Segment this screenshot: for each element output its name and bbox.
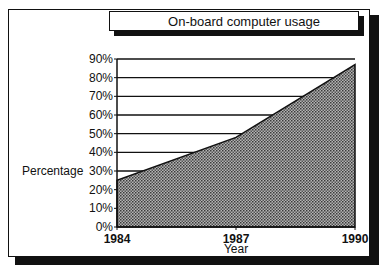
area-series bbox=[117, 65, 355, 227]
y-tick-label: 50% bbox=[89, 127, 113, 141]
area-chart: 0%10%20%30%40%50%60%70%80%90% 1984198719… bbox=[0, 0, 384, 278]
y-tick-label: 30% bbox=[89, 164, 113, 178]
y-tick-labels: 0%10%20%30%40%50%60%70%80%90% bbox=[89, 52, 113, 234]
y-tick-label: 80% bbox=[89, 71, 113, 85]
y-axis-title: Percentage bbox=[22, 164, 84, 178]
y-tick-label: 40% bbox=[89, 145, 113, 159]
x-tick-label: 1990 bbox=[342, 232, 369, 246]
y-tick-label: 10% bbox=[89, 201, 113, 215]
x-tick-label: 1984 bbox=[104, 232, 131, 246]
x-axis-title: Year bbox=[224, 242, 248, 256]
y-tick-label: 20% bbox=[89, 183, 113, 197]
y-tick-label: 60% bbox=[89, 108, 113, 122]
y-tick-label: 70% bbox=[89, 89, 113, 103]
y-tick-label: 90% bbox=[89, 52, 113, 66]
